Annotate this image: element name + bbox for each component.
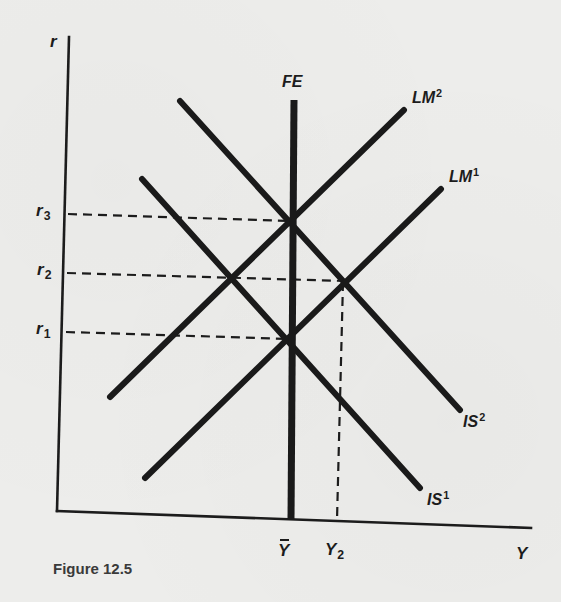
tick-r3: r3 xyxy=(36,202,50,223)
tick-r1: r1 xyxy=(36,320,50,341)
fe-label: FE xyxy=(282,74,302,90)
figure-page: r Y r3 r2 r1 Y Y2 FE LM2 LM1 IS2 IS1 Fig… xyxy=(0,0,561,602)
tick-r2: r2 xyxy=(37,261,51,282)
x-axis-label: Y xyxy=(516,545,527,562)
lm2-label: LM2 xyxy=(412,88,442,106)
lm1-label: LM1 xyxy=(449,167,479,185)
tick-y2: Y2 xyxy=(325,541,344,562)
fe-line xyxy=(291,100,294,520)
tick-ybar: Y xyxy=(278,542,289,559)
r2-guide-line xyxy=(67,273,345,281)
y-axis-label: r xyxy=(50,33,57,50)
is-lm-fe-diagram xyxy=(0,0,561,602)
is2-curve xyxy=(180,101,460,410)
lm2-curve xyxy=(110,110,404,397)
is2-label: IS2 xyxy=(463,412,485,430)
is1-label: IS1 xyxy=(427,490,449,508)
figure-caption: Figure 12.5 xyxy=(53,560,132,577)
